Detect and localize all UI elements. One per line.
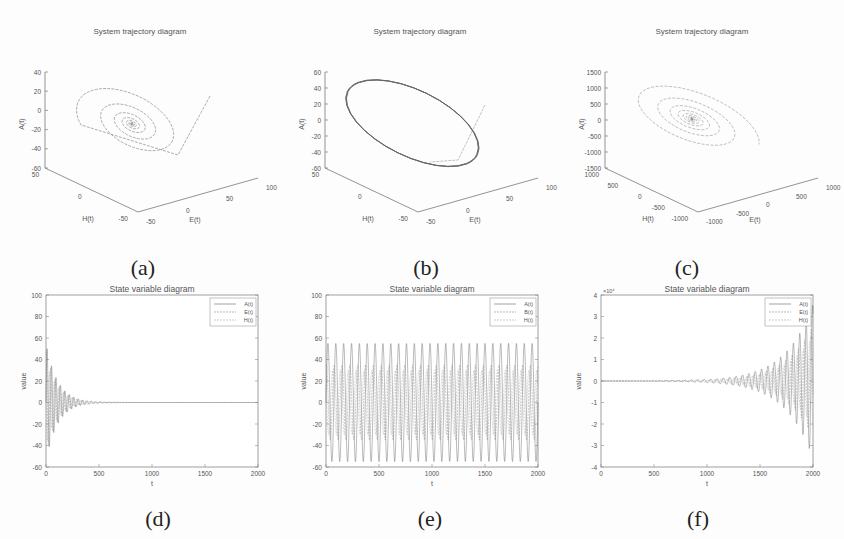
z-axis-label: A(t) bbox=[578, 118, 586, 129]
chart-e-state: State variable diagram100806040200-20-40… bbox=[280, 282, 565, 492]
legend-entry: H(t) bbox=[244, 317, 253, 323]
svg-text:1000: 1000 bbox=[826, 184, 841, 191]
svg-text:0: 0 bbox=[318, 399, 322, 406]
chart-c-canvas: System trajectory diagram150010005000-50… bbox=[560, 0, 844, 235]
caption-c: (c) bbox=[657, 255, 717, 281]
svg-text:60: 60 bbox=[35, 335, 43, 342]
legend-entry: E(t) bbox=[244, 309, 253, 315]
chart-b-trajectory: System trajectory diagram6040200-20-40-6… bbox=[280, 0, 560, 235]
svg-text:80: 80 bbox=[35, 313, 43, 320]
svg-text:0: 0 bbox=[766, 201, 770, 208]
legend-entry: E(t) bbox=[799, 309, 808, 315]
caption-f: (f) bbox=[668, 506, 728, 532]
svg-text:-40: -40 bbox=[32, 145, 42, 152]
svg-text:1: 1 bbox=[593, 356, 597, 363]
chart-d-canvas: State variable diagram100806040200-20-40… bbox=[0, 282, 285, 492]
svg-text:-20: -20 bbox=[32, 126, 42, 133]
svg-text:-1: -1 bbox=[591, 399, 597, 406]
chart-f-state: State variable diagram43210-1-2-3-405001… bbox=[555, 282, 844, 492]
svg-text:-50: -50 bbox=[399, 215, 409, 222]
y-axis-label: value bbox=[20, 373, 27, 390]
svg-text:60: 60 bbox=[315, 335, 323, 342]
svg-text:2: 2 bbox=[593, 335, 597, 342]
svg-text:-1000: -1000 bbox=[671, 215, 688, 222]
svg-text:500: 500 bbox=[94, 470, 105, 477]
svg-text:1000: 1000 bbox=[145, 470, 160, 477]
svg-text:0: 0 bbox=[44, 470, 48, 477]
svg-text:2000: 2000 bbox=[251, 470, 266, 477]
z-axis-label: A(t) bbox=[298, 118, 306, 129]
legend-entry: B(t) bbox=[524, 309, 533, 315]
chart-b-canvas: System trajectory diagram6040200-20-40-6… bbox=[280, 0, 560, 235]
legend-entry: H(t) bbox=[799, 317, 808, 323]
legend: A(t)E(t)H(t) bbox=[210, 298, 256, 326]
svg-text:1500: 1500 bbox=[198, 470, 213, 477]
svg-text:0: 0 bbox=[38, 399, 42, 406]
svg-text:-500: -500 bbox=[588, 133, 601, 140]
svg-text:-20: -20 bbox=[313, 421, 323, 428]
chart-title: System trajectory diagram bbox=[656, 27, 749, 36]
chart-e-canvas: State variable diagram100806040200-20-40… bbox=[280, 282, 565, 492]
y-axis-label: value bbox=[300, 373, 307, 390]
x-axis-label: E(t) bbox=[189, 216, 200, 224]
svg-text:-60: -60 bbox=[33, 464, 43, 471]
svg-text:-40: -40 bbox=[312, 149, 322, 156]
svg-text:2000: 2000 bbox=[806, 470, 821, 477]
chart-a-trajectory: System trajectory diagram40200-20-40-60A… bbox=[0, 0, 280, 235]
chart-title: System trajectory diagram bbox=[94, 27, 187, 36]
svg-text:3: 3 bbox=[593, 313, 597, 320]
svg-text:-4: -4 bbox=[591, 464, 597, 471]
svg-text:-50: -50 bbox=[119, 215, 129, 222]
svg-text:1000: 1000 bbox=[587, 85, 602, 92]
svg-text:20: 20 bbox=[35, 378, 43, 385]
svg-text:0: 0 bbox=[599, 470, 603, 477]
svg-text:1000: 1000 bbox=[585, 171, 600, 178]
chart-c-trajectory: System trajectory diagram150010005000-50… bbox=[560, 0, 844, 235]
svg-text:40: 40 bbox=[34, 69, 42, 76]
svg-text:-500: -500 bbox=[652, 204, 665, 211]
svg-text:-60: -60 bbox=[313, 464, 323, 471]
chart-f-canvas: State variable diagram43210-1-2-3-405001… bbox=[555, 282, 844, 492]
svg-text:-1000: -1000 bbox=[584, 149, 601, 156]
svg-text:500: 500 bbox=[649, 470, 660, 477]
caption-e: (e) bbox=[400, 506, 460, 532]
svg-text:0: 0 bbox=[78, 193, 82, 200]
y-multiplier: ×10⁴ bbox=[603, 288, 615, 294]
svg-text:20: 20 bbox=[34, 88, 42, 95]
svg-text:50: 50 bbox=[312, 171, 320, 178]
svg-text:500: 500 bbox=[590, 101, 601, 108]
svg-text:100: 100 bbox=[31, 292, 42, 299]
svg-text:0: 0 bbox=[638, 193, 642, 200]
svg-text:0: 0 bbox=[597, 117, 601, 124]
svg-text:100: 100 bbox=[311, 292, 322, 299]
y-axis-label: H(t) bbox=[642, 215, 654, 223]
svg-text:-3: -3 bbox=[591, 442, 597, 449]
svg-text:20: 20 bbox=[314, 101, 322, 108]
caption-d: (d) bbox=[128, 506, 188, 532]
svg-text:100: 100 bbox=[546, 184, 557, 191]
legend-entry: A(t) bbox=[244, 301, 253, 307]
chart-title: State variable diagram bbox=[389, 284, 474, 294]
svg-text:20: 20 bbox=[315, 378, 323, 385]
y-axis-label: H(t) bbox=[362, 215, 374, 223]
svg-text:0: 0 bbox=[317, 117, 321, 124]
svg-text:50: 50 bbox=[226, 195, 234, 202]
svg-text:0: 0 bbox=[324, 470, 328, 477]
svg-text:80: 80 bbox=[315, 313, 323, 320]
svg-text:-50: -50 bbox=[426, 218, 436, 225]
svg-text:40: 40 bbox=[315, 356, 323, 363]
svg-text:500: 500 bbox=[796, 193, 807, 200]
svg-text:-20: -20 bbox=[312, 133, 322, 140]
svg-text:0: 0 bbox=[593, 378, 597, 385]
svg-text:2000: 2000 bbox=[531, 470, 546, 477]
chart-d-state: State variable diagram100806040200-20-40… bbox=[0, 282, 285, 492]
svg-text:-40: -40 bbox=[33, 442, 43, 449]
svg-text:0: 0 bbox=[358, 193, 362, 200]
svg-text:60: 60 bbox=[314, 69, 322, 76]
svg-text:0: 0 bbox=[466, 207, 470, 214]
svg-text:-20: -20 bbox=[33, 421, 43, 428]
z-axis-label: A(t) bbox=[18, 118, 26, 129]
svg-text:0: 0 bbox=[37, 107, 41, 114]
svg-text:4: 4 bbox=[593, 292, 597, 299]
legend-entry: A(t) bbox=[799, 301, 808, 307]
